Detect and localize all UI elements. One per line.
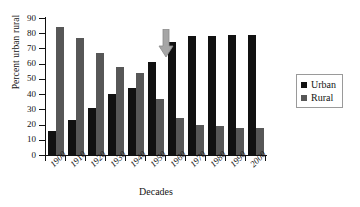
y-tick-mark (39, 109, 45, 110)
bar-rural-1920 (96, 53, 104, 155)
legend-swatch-urban (301, 82, 307, 88)
legend-item-urban: Urban (301, 78, 336, 91)
y-tick-label: 0 (6, 151, 36, 160)
x-axis-title: Decades (108, 186, 204, 197)
y-tick-label: 40 (6, 90, 36, 99)
y-tick-label: 90 (6, 14, 36, 23)
x-tick-mark (45, 156, 46, 161)
y-tick-label: 10 (6, 135, 36, 144)
bar-rural-1900 (56, 27, 64, 155)
bar-rural-1910 (76, 38, 84, 155)
down-arrow-annotation-icon (158, 29, 174, 58)
y-tick-mark (39, 79, 45, 80)
legend-label-rural: Rural (311, 93, 333, 103)
bar-chart: Percent urban rural 0102030405060708090 … (0, 0, 360, 207)
y-tick-label: 70 (6, 44, 36, 53)
y-tick-mark (39, 33, 45, 34)
y-tick-mark (39, 94, 45, 95)
y-tick-mark (39, 48, 45, 49)
y-tick-mark (39, 140, 45, 141)
legend-item-rural: Rural (301, 91, 336, 104)
y-tick-mark (39, 18, 45, 19)
y-tick-mark (39, 64, 45, 65)
y-tick-label: 80 (6, 29, 36, 38)
legend: Urban Rural (296, 74, 343, 108)
bar-urban-1900 (48, 131, 56, 155)
y-tick-label: 30 (6, 105, 36, 114)
bar-rural-1930 (116, 67, 124, 155)
y-tick-label: 60 (6, 59, 36, 68)
y-tick-mark (39, 125, 45, 126)
y-tick-label: 50 (6, 74, 36, 83)
legend-label-urban: Urban (311, 80, 336, 90)
y-tick-label: 20 (6, 120, 36, 129)
bars-layer (46, 18, 266, 155)
legend-swatch-rural (301, 95, 307, 101)
